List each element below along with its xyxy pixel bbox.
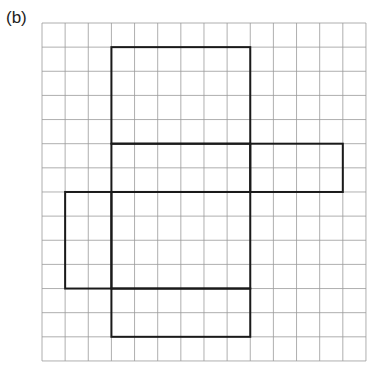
grid-diagram [0,0,386,383]
